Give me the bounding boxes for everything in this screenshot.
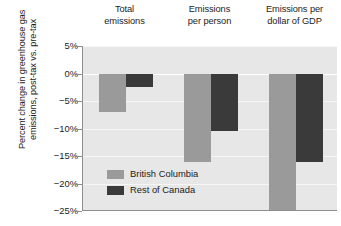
y-axis-tick-label: −10%: [38, 124, 78, 134]
category-header-line2: dollar of GDP: [252, 16, 337, 28]
legend-swatch-icon: [107, 170, 124, 179]
y-axis-tick-label: −20%: [38, 179, 78, 189]
category-header-line1: Emissions per: [252, 4, 337, 16]
gridline: [83, 46, 337, 47]
category-header-emissions-per-person: Emissions per person: [167, 1, 252, 43]
legend-item-rest-of-canada[interactable]: Rest of Canada: [107, 183, 198, 197]
y-axis-tick-mark: [76, 211, 82, 212]
category-header-line1: Total: [82, 4, 167, 16]
y-axis-tick-label: −5%: [38, 96, 78, 106]
legend-item-british-columbia[interactable]: British Columbia: [107, 167, 198, 181]
y-axis-tick-label: 5%: [38, 41, 78, 51]
y-axis-title-line1: Percent change in greenhouse gas: [17, 0, 28, 169]
legend-swatch-icon: [107, 186, 124, 195]
category-header-line2: per person: [167, 16, 252, 28]
category-header-line2: emissions: [82, 16, 167, 28]
bar-british-columbia-emissions-per-dollar-of-gdp[interactable]: [269, 74, 296, 212]
category-headers: Total emissions Emissions per person Emi…: [82, 1, 337, 43]
bar-british-columbia-emissions-per-person[interactable]: [184, 74, 211, 162]
category-header-total-emissions: Total emissions: [82, 1, 167, 43]
category-header-emissions-per-dollar-gdp: Emissions per dollar of GDP: [252, 1, 337, 43]
plot-area: British Columbia Rest of Canada: [82, 46, 337, 211]
y-axis-tick-label: 0%: [38, 69, 78, 79]
chart-figure: Total emissions Emissions per person Emi…: [0, 0, 341, 226]
bar-british-columbia-total-emissions[interactable]: [99, 74, 126, 113]
legend-label: British Columbia: [130, 169, 198, 179]
bar-rest-of-canada-total-emissions[interactable]: [126, 74, 153, 88]
legend-label: Rest of Canada: [130, 185, 195, 195]
bar-rest-of-canada-emissions-per-person[interactable]: [211, 74, 238, 132]
category-header-line1: Emissions: [167, 4, 252, 16]
bar-rest-of-canada-emissions-per-dollar-of-gdp[interactable]: [296, 74, 323, 162]
y-axis-tick-label: −25%: [38, 206, 78, 216]
chart-legend: British Columbia Rest of Canada: [107, 167, 198, 199]
caption-strip: [0, 216, 341, 226]
y-axis-tick-label: −15%: [38, 151, 78, 161]
y-axis-tick-labels: 5%0%−5%−10%−15%−20%−25%: [34, 0, 78, 226]
